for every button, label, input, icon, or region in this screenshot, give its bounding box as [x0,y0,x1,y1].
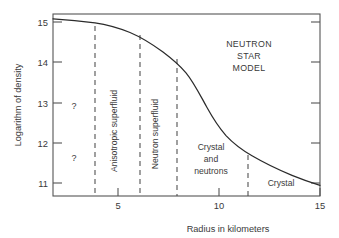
y-axis-label: Logarithm of density [13,63,23,146]
x-tick-label-10: 10 [214,200,224,211]
annotation-crystal: Crystal [268,178,295,188]
x-axis-label: Radius in kilometers [187,224,270,234]
annotation-unknown-region-lower: ? [71,153,76,163]
annotation-crystal-and-neutrons-line-2: and [204,154,219,164]
chart-title-line-2: STAR [237,51,261,61]
chart-background [0,0,339,238]
y-tick-label-12: 12 [38,138,48,149]
annotation-crystal-and-neutrons-line-3: neutrons [194,166,227,176]
chart-title-line-3: MODEL [233,63,266,73]
chart-title-line-1: NEUTRON [226,39,272,49]
annotation-crystal-and-neutrons-line-1: Crystal [198,142,225,152]
y-tick-label-14: 14 [38,57,48,68]
annotation-unknown-region-upper: ? [71,101,76,111]
x-tick-label-5: 5 [115,200,120,211]
y-tick-label-11: 11 [38,178,48,189]
neutron-star-density-chart: 15 14 13 12 11 5 10 15 Radius in kilomet… [0,0,339,238]
y-tick-label-13: 13 [38,98,48,109]
annotation-anisotropic-superfluid: Anisotropic superfluid [109,90,119,172]
annotation-neutron-superfluid: Neutron superfluid [150,99,160,169]
y-tick-label-15: 15 [38,17,48,28]
x-tick-label-15: 15 [315,200,325,211]
